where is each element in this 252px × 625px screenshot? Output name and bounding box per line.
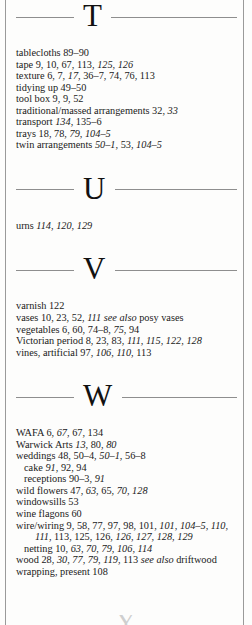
entry-text-italic: 67	[57, 427, 67, 438]
entry-text: , 92, 94	[56, 462, 87, 473]
heading-rule-right	[111, 17, 237, 18]
heading-spacer	[16, 207, 237, 220]
index-entry: transport 134, 135–6	[16, 116, 237, 128]
column-rule-right	[243, 0, 244, 625]
entry-text: Victorian period 8, 23, 83,	[16, 335, 127, 346]
entry-text: tablecloths 89–90	[16, 47, 89, 58]
entry-text: tape 9, 10, 67, 113,	[16, 59, 97, 70]
entry-text-italic: 50–1	[99, 450, 120, 461]
entry-text: , 94	[124, 324, 139, 335]
entry-text: receptions 90–3,	[24, 473, 95, 484]
entry-text: vases 10, 23, 52,	[16, 312, 87, 323]
entry-text: Warwick Arts	[16, 439, 75, 450]
entry-text-italic: 126, 127, 128, 129	[115, 531, 192, 542]
entry-list: urns 114, 120, 129	[16, 220, 237, 232]
entry-text: urns	[16, 220, 36, 231]
entry-text: tidying up 49–50	[16, 82, 86, 93]
entry-text: wrapping, present 108	[16, 566, 108, 577]
entry-list: tablecloths 89–90tape 9, 10, 67, 113, 12…	[16, 47, 237, 151]
entry-text-italic: 134	[55, 116, 70, 127]
entry-text: varnish 122	[16, 300, 64, 311]
entry-text: wire/wiring 9, 58, 77, 97, 98, 101,	[16, 520, 159, 531]
heading-rule-right	[122, 397, 237, 398]
entry-text: , 113	[131, 347, 151, 358]
entry-text-italic: 30, 77, 79, 119	[57, 554, 118, 565]
entry-text: twin arrangements	[16, 139, 95, 150]
heading-spacer	[16, 414, 237, 427]
heading-rule-left	[16, 270, 74, 271]
index-entry: WAFA 6, 67, 67, 134	[16, 427, 237, 439]
heading-rule-left	[16, 189, 74, 190]
heading-spacer	[16, 287, 237, 300]
entry-text-italic: 75	[114, 324, 124, 335]
index-entry: tidying up 49–50	[16, 82, 237, 94]
entry-text: tool box 9, 9, 52	[16, 93, 84, 104]
entry-text: , 135–6	[71, 116, 102, 127]
entry-list: WAFA 6, 67, 67, 134Warwick Arts 13, 80, …	[16, 427, 237, 577]
entry-text-italic: 13	[75, 439, 85, 450]
index-entry: tablecloths 89–90	[16, 47, 237, 59]
section-heading-v: V	[16, 253, 237, 287]
entry-text: WAFA 6,	[16, 427, 57, 438]
entry-text-italic: 63	[86, 485, 96, 496]
entry-text: , 53,	[116, 139, 137, 150]
entry-text-italic: 114	[36, 220, 51, 231]
index-entry: vegetables 6, 60, 74–8, 75, 94	[16, 324, 237, 336]
heading-rule-right	[115, 189, 237, 190]
entry-list: varnish 122vases 10, 23, 52, 111 see als…	[16, 300, 237, 358]
index-entry: windowsills 53	[16, 496, 237, 508]
entry-text: driftwood	[174, 554, 217, 565]
entry-text-italic: 104–5	[136, 139, 162, 150]
entry-text-italic: 63, 70, 79, 106, 114	[71, 543, 153, 554]
index-entry: texture 6, 7, 17, 36–7, 74, 76, 113	[16, 70, 237, 82]
entry-text: , 65,	[96, 485, 117, 496]
index-subentry: cake 91, 92, 94	[16, 462, 237, 474]
entry-text-italic: 17	[68, 70, 78, 81]
entry-text-italic: 91	[95, 473, 105, 484]
index-entry: twin arrangements 50–1, 53, 104–5	[16, 139, 237, 151]
section-letter: U	[74, 174, 115, 204]
entry-text: , 113	[118, 554, 141, 565]
entry-text: wine flagons 60	[16, 508, 82, 519]
index-entry: wire/wiring 9, 58, 77, 97, 98, 101, 101,…	[16, 520, 237, 543]
entry-text-italic: 91	[45, 462, 55, 473]
index-entry: wine flagons 60	[16, 508, 237, 520]
index-column: Ttablecloths 89–90tape 9, 10, 67, 113, 1…	[6, 0, 243, 625]
entry-text: netting 10,	[24, 543, 71, 554]
index-entry: wild flowers 47, 63, 65, 70, 128	[16, 485, 237, 497]
index-subentry: receptions 90–3, 91	[16, 473, 237, 485]
entry-text-italic: 120, 129	[56, 220, 92, 231]
entry-text-italic: 70, 128	[117, 485, 148, 496]
entry-text-italic: 50–1	[95, 139, 116, 150]
index-entry: Victorian period 8, 23, 83, 111, 115, 12…	[16, 335, 237, 347]
index-entry: urns 114, 120, 129	[16, 220, 237, 232]
entry-text: , 36–7, 74, 76, 113	[78, 70, 155, 81]
entry-text: cake	[24, 462, 45, 473]
index-entry: tape 9, 10, 67, 113, 125, 126	[16, 59, 237, 71]
index-entry: tool box 9, 9, 52	[16, 93, 237, 105]
entry-text-italic: see also	[141, 554, 174, 565]
entry-text: , 80,	[86, 439, 107, 450]
section-letter: V	[74, 254, 115, 284]
entry-text: weddings 48, 50–4,	[16, 450, 99, 461]
index-entry: weddings 48, 50–4, 50–1, 56–8	[16, 450, 237, 462]
section-gap	[16, 358, 237, 380]
entry-text: transport	[16, 116, 55, 127]
entry-text: vegetables 6, 60, 74–8,	[16, 324, 114, 335]
entry-text-italic: 79, 104–5	[69, 128, 110, 139]
next-section-letter-peek: Y	[0, 615, 252, 625]
index-entry: varnish 122	[16, 300, 237, 312]
heading-rule-left	[16, 17, 74, 18]
section-heading-w: W	[16, 380, 237, 414]
entry-text-italic: 111	[87, 312, 101, 323]
section-heading-t: T	[16, 0, 237, 34]
index-page: Ttablecloths 89–90tape 9, 10, 67, 113, 1…	[0, 0, 252, 625]
index-entry: vines, artificial 97, 106, 110, 113	[16, 347, 237, 359]
section-letter: T	[74, 1, 111, 31]
entry-text-italic: 33	[168, 105, 178, 116]
index-entry: traditional/massed arrangements 32, 33	[16, 105, 237, 117]
entry-text-italic: 80	[106, 439, 116, 450]
entry-text: , 67, 134	[67, 427, 103, 438]
entry-text: vines, artificial 97,	[16, 347, 96, 358]
index-entry: vases 10, 23, 52, 111 see also posy vase…	[16, 312, 237, 324]
